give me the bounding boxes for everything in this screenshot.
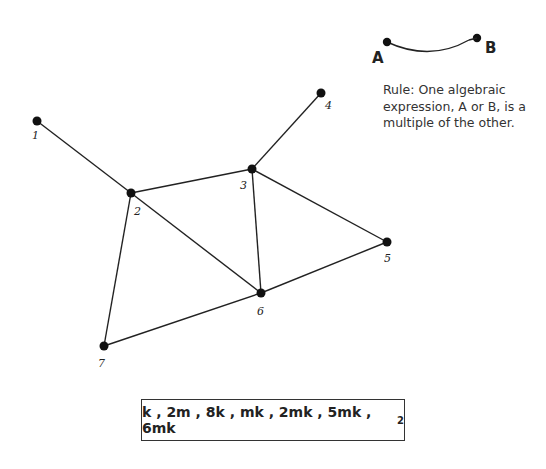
label-a: A: [372, 49, 384, 67]
node-4: [317, 89, 326, 98]
edge-2-6: [131, 193, 261, 293]
node-label-1: 1: [32, 129, 39, 142]
node-2: [127, 189, 136, 198]
rule-text: Rule: One algebraic expression, A or B, …: [383, 82, 543, 132]
label-b: B: [485, 39, 496, 57]
node-7: [100, 342, 109, 351]
edge-3-5: [252, 169, 387, 242]
node-label-7: 7: [98, 357, 105, 370]
node-5: [383, 238, 392, 247]
node-label-2: 2: [133, 205, 141, 218]
edge-2-3: [131, 169, 252, 193]
node-1: [33, 117, 42, 126]
edge-2-7: [104, 193, 131, 346]
legend-edge: A B: [372, 34, 496, 67]
node-6: [257, 289, 266, 298]
node-label-6: 6: [257, 305, 264, 318]
exponent: 2: [397, 415, 404, 426]
edge-3-6: [252, 169, 261, 293]
edge-1-2: [37, 121, 131, 193]
edge-6-7: [104, 293, 261, 346]
node-label-3: 3: [240, 179, 247, 192]
node-label-5: 5: [384, 252, 391, 265]
expression-list-box: k , 2m , 8k , mk , 2mk , 5mk , 6mk2: [141, 399, 405, 441]
expression-list: k , 2m , 8k , mk , 2mk , 5mk , 6mk: [142, 404, 397, 436]
edge-5-6: [261, 242, 387, 293]
node-label-4: 4: [324, 99, 332, 112]
legend-node-a: [383, 38, 391, 46]
node-3: [248, 165, 257, 174]
edge-3-4: [252, 93, 321, 169]
